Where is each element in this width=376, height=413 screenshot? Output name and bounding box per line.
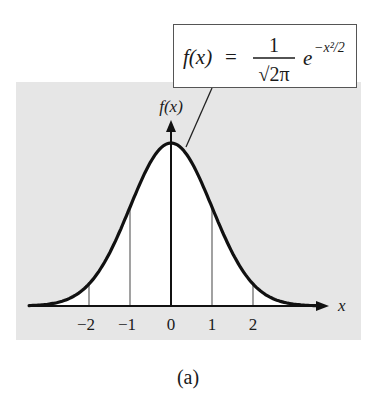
x-axis-label: x — [337, 296, 346, 315]
formula-denominator: √2π — [258, 63, 289, 85]
x-tick-label: −1 — [118, 315, 136, 334]
x-tick-label: −2 — [77, 315, 95, 334]
x-tick-label: 0 — [167, 315, 176, 334]
formula-lhs: f(x) — [183, 45, 212, 69]
figure-caption: (a) — [0, 366, 376, 389]
formula-box: f(x) = 1 √2π e −x²/2 — [173, 24, 357, 88]
y-axis-label: f(x) — [159, 97, 183, 116]
formula-equals: = — [225, 45, 237, 69]
x-tick-label: 1 — [208, 315, 217, 334]
formula-numerator: 1 — [269, 34, 279, 56]
x-tick-label: 2 — [249, 315, 258, 334]
formula-base: e — [303, 46, 312, 70]
normal-distribution-figure: −2−1012 f(x) x f(x) = 1 √2π e −x²/2 (a) — [0, 0, 376, 413]
formula-exponent: −x²/2 — [314, 40, 345, 55]
